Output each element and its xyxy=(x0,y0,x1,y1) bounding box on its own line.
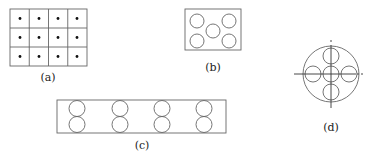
figure-d-crosshair xyxy=(294,40,365,108)
figure-a-grid xyxy=(10,9,87,66)
figure-d-label: (d) xyxy=(323,121,339,134)
figure-c-label: (c) xyxy=(135,139,150,152)
figure-b xyxy=(185,9,241,50)
figure-b-label: (b) xyxy=(205,61,221,74)
figure-a-label: (a) xyxy=(40,71,55,84)
figure-c xyxy=(57,100,226,133)
diagram-canvas: (a) (b) (c) (d) xyxy=(0,0,378,158)
